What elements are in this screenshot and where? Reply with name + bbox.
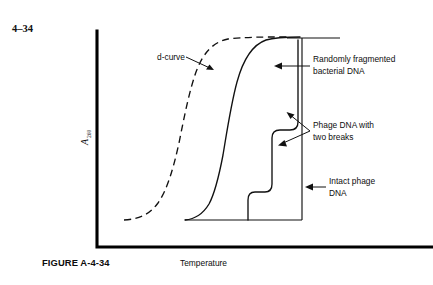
dna-melting-curve-figure: 4–34 d-curve Randomly fragmented bacteri… [0, 0, 433, 285]
phage-label-line2: two breaks [313, 132, 354, 142]
figure-page: 4–34 d-curve Randomly fragmented bacteri… [0, 0, 433, 285]
y-axis-label-group: A 260 [79, 129, 92, 146]
phage-arrowhead-lower [278, 140, 287, 147]
intact-phage-arrowhead [305, 184, 313, 191]
fragmented-label-line1: Randomly fragmented [313, 54, 396, 64]
fragmented-label-line2: bacterial DNA [313, 66, 365, 76]
corner-problem-number: 4–34 [12, 23, 34, 34]
y-axis-label-subscript: 260 [86, 129, 92, 138]
y-axis-label: A [79, 138, 90, 146]
figure-caption: FIGURE A-4-34 [42, 257, 110, 268]
phage-label-line1: Phage DNA with [313, 120, 374, 130]
intact-phage-label-line2: DNA [329, 188, 347, 198]
d-curve-label: d-curve [157, 52, 185, 62]
x-axis-label: Temperature [180, 258, 227, 268]
phage-leader-lower [281, 131, 310, 144]
phage-two-breaks-step [248, 40, 298, 220]
intact-phage-label-line1: Intact phage [329, 176, 375, 186]
fragmented-arrowhead [274, 63, 282, 70]
